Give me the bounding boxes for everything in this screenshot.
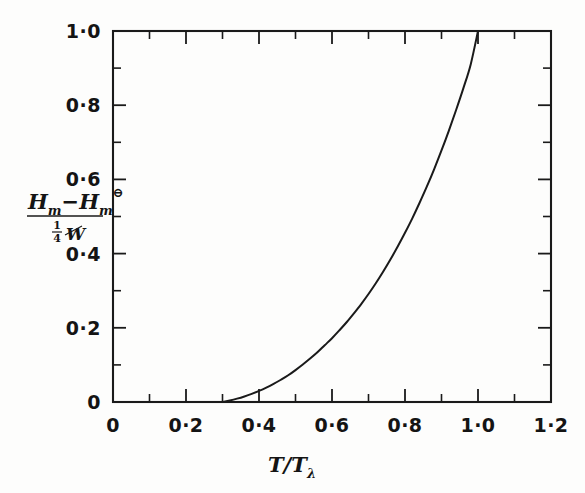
svg-text:T/Tλ: T/Tλ: [268, 452, 316, 481]
y-axis-numerator: Hm−Hm⊖: [27, 185, 124, 218]
y-num-H2: H: [78, 189, 100, 214]
y-tick-label: 0: [87, 391, 101, 413]
x-axis-title: T/Tλ: [268, 452, 316, 481]
x-tick-label: 0·6: [314, 414, 349, 436]
y-num-minus: −: [62, 189, 80, 214]
y-num-standard-state-symbol: ⊖: [113, 185, 124, 200]
x-tick-label: 1·0: [460, 414, 495, 436]
x-tick-label: 0·8: [387, 414, 422, 436]
x-tick-label: 0·2: [168, 414, 203, 436]
tick-marks: [113, 31, 551, 402]
y-den-quarter-denominator: 4: [53, 232, 61, 245]
y-den-quarter-numerator: 1: [53, 219, 61, 232]
y-tick-label: 1·0: [66, 20, 101, 42]
plot-frame: [113, 31, 551, 402]
x-tick-label: 1·2: [533, 414, 568, 436]
y-num-H1: H: [27, 189, 49, 214]
chart-canvas: 00·20·40·60·81·01·2 00·20·40·60·81·0 T/T…: [0, 0, 585, 493]
y-tick-label: 0·6: [66, 168, 101, 190]
y-axis-title: Hm−Hm⊖ 1 4 W: [27, 185, 124, 245]
x-axis-title-subscript: λ: [306, 466, 316, 481]
y-tick-label: 0·2: [66, 317, 101, 339]
x-tick-label: 0·4: [241, 414, 276, 436]
axes-border: [113, 31, 551, 402]
x-tick-label: 0: [106, 414, 120, 436]
data-curve-line: [223, 31, 479, 402]
x-axis-tick-labels: 00·20·40·60·81·01·2: [106, 414, 568, 436]
y-tick-label: 0·4: [66, 243, 101, 265]
y-tick-label: 0·8: [66, 94, 101, 116]
x-axis-title-main: T/T: [268, 452, 308, 477]
y-den-W-symbol: W: [66, 224, 87, 244]
figure-container: 00·20·40·60·81·01·2 00·20·40·60·81·0 T/T…: [0, 0, 585, 493]
data-series-group: [223, 31, 479, 402]
